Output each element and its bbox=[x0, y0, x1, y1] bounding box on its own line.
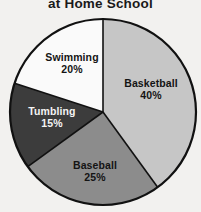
slice-label-baseball-value: 25% bbox=[56, 172, 134, 184]
slice-label-tumbling-value: 15% bbox=[16, 118, 88, 130]
slice-label-swimming-name: Swimming bbox=[32, 52, 112, 64]
slice-label-basketball-name: Basketball bbox=[113, 78, 189, 90]
slice-label-basketball: Basketball 40% bbox=[113, 78, 189, 101]
slice-label-swimming-value: 20% bbox=[32, 64, 112, 76]
slice-label-tumbling: Tumbling 15% bbox=[16, 106, 88, 129]
slice-label-baseball: Baseball 25% bbox=[56, 160, 134, 183]
slice-label-baseball-name: Baseball bbox=[56, 160, 134, 172]
slice-label-swimming: Swimming 20% bbox=[32, 52, 112, 75]
slice-label-tumbling-name: Tumbling bbox=[16, 106, 88, 118]
slice-label-basketball-value: 40% bbox=[113, 90, 189, 102]
pie-chart-figure: at Home School Basketball 40% Baseball 2… bbox=[0, 0, 201, 212]
